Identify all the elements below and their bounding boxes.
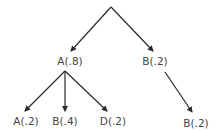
node-a-0.2: A(.2) [13,116,38,127]
node-a-0.8: A(.8) [57,56,82,67]
edge-a-to-d [65,71,107,111]
tree-edges [0,0,219,133]
edge-a-to-a [25,71,65,111]
node-b-0.4: B(.4) [52,116,77,127]
node-d-0.2: D(.2) [100,116,126,127]
edge-root-to-b [111,7,153,51]
edge-b-to-b [165,72,192,112]
node-b-0.2: B(.2) [142,56,167,67]
edge-root-to-a [71,7,111,51]
node-b-0.2-leaf: B(.2) [183,118,208,129]
